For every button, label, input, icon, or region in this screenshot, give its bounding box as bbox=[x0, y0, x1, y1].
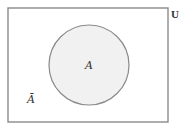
set-a-label: A bbox=[84, 59, 93, 72]
universe-label: U bbox=[171, 8, 179, 20]
venn-diagram: A Ā U bbox=[0, 0, 183, 127]
complement-label: Ā bbox=[26, 93, 35, 106]
